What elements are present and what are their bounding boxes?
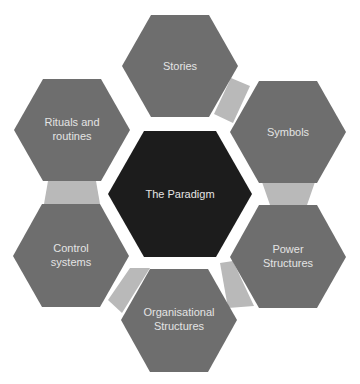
- node-label: Stories: [163, 60, 198, 72]
- node-label-line1: Power: [272, 243, 304, 255]
- node-the-paradigm: The Paradigm: [108, 131, 252, 257]
- connector-symbols-power: [262, 182, 315, 205]
- connector-control-rituals: [44, 181, 100, 204]
- node-label-line2: Structures: [263, 257, 314, 269]
- node-label-line2: Structures: [154, 320, 205, 332]
- node-label-line1: Control: [53, 242, 88, 254]
- center-label: The Paradigm: [145, 188, 214, 200]
- node-label-line2: routines: [52, 130, 92, 142]
- node-symbols: Symbols: [230, 81, 346, 183]
- node-label: Symbols: [267, 126, 310, 138]
- node-label-line1: Organisational: [144, 306, 215, 318]
- node-label-line2: systems: [51, 256, 92, 268]
- node-rituals-and-routines: Rituals and routines: [14, 79, 130, 181]
- node-label-line1: Rituals and: [44, 116, 99, 128]
- node-control-systems: Control systems: [13, 204, 129, 307]
- cultural-web-diagram: Stories Symbols Power Structures Organis…: [0, 0, 360, 384]
